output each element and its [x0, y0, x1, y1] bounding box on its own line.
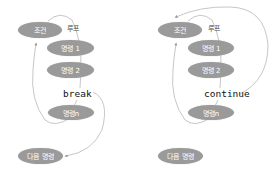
- condition-label: 조건: [174, 25, 186, 35]
- command-2-node: 명령 2: [47, 62, 94, 78]
- command-n-node: 명령n: [188, 105, 234, 120]
- next-command-node: 다음 명령: [158, 148, 203, 164]
- next-command-label: 다음 명령: [27, 151, 53, 161]
- next-command-label: 다음 명령: [167, 151, 193, 161]
- command-n-label: 명령n: [63, 108, 79, 118]
- condition-label: 조건: [34, 25, 46, 35]
- loop-label: 루프: [208, 23, 220, 33]
- command-1-node: 명령 1: [47, 40, 94, 56]
- condition-node: 조건: [18, 22, 62, 38]
- loop-label: 루프: [67, 23, 79, 33]
- continue-diagram: 조건 루프 명령 1 명령 2 continue 명령n 다음 명령: [140, 0, 279, 174]
- command-n-label: 명령n: [203, 108, 219, 118]
- command-2-label: 명령 2: [61, 65, 80, 75]
- command-2-label: 명령 2: [202, 65, 221, 75]
- command-2-node: 명령 2: [188, 62, 234, 78]
- break-keyword: break: [63, 88, 92, 99]
- break-diagram: 조건 루프 명령 1 명령 2 break 명령n 다음 명령: [0, 0, 140, 174]
- command-1-label: 명령 1: [61, 43, 80, 53]
- condition-node: 조건: [158, 22, 202, 38]
- next-command-node: 다음 명령: [18, 148, 63, 164]
- command-n-node: 명령n: [48, 105, 94, 120]
- continue-keyword: continue: [204, 88, 250, 99]
- command-1-label: 명령 1: [202, 43, 221, 53]
- command-1-node: 명령 1: [188, 40, 234, 56]
